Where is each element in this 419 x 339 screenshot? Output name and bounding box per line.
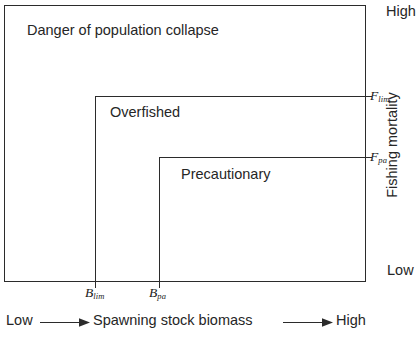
x-axis-title: Spawning stock biomass [93, 313, 253, 328]
threshold-subscript-b-pa: pa [157, 291, 166, 301]
y-axis-title: Fishing mortality [385, 65, 400, 225]
region-label-overfished: Overfished [110, 105, 180, 120]
threshold-label-b-lim: Blim [85, 286, 105, 301]
threshold-symbol-b-lim: B [85, 285, 93, 300]
region-label-danger-of-population-collapse: Danger of population collapse [27, 23, 219, 38]
x-axis-spawning-stock-biomass: Low Spawning stock biomass High [0, 306, 419, 339]
threshold-subscript-b-lim: lim [93, 291, 104, 301]
x-axis-left-arrow-icon [40, 318, 90, 327]
threshold-symbol-b-pa: B [149, 285, 157, 300]
y-axis-high-label: High [386, 4, 416, 19]
region-label-precautionary: Precautionary [181, 167, 270, 182]
x-axis-low-label: Low [6, 313, 33, 328]
x-axis-right-arrow-icon [283, 318, 333, 327]
fisheries-reference-point-diagram: Danger of population collapse Overfished… [0, 0, 419, 339]
threshold-label-b-pa: Bpa [149, 286, 166, 301]
y-axis-low-label: Low [387, 263, 414, 278]
x-axis-high-label: High [336, 313, 366, 328]
